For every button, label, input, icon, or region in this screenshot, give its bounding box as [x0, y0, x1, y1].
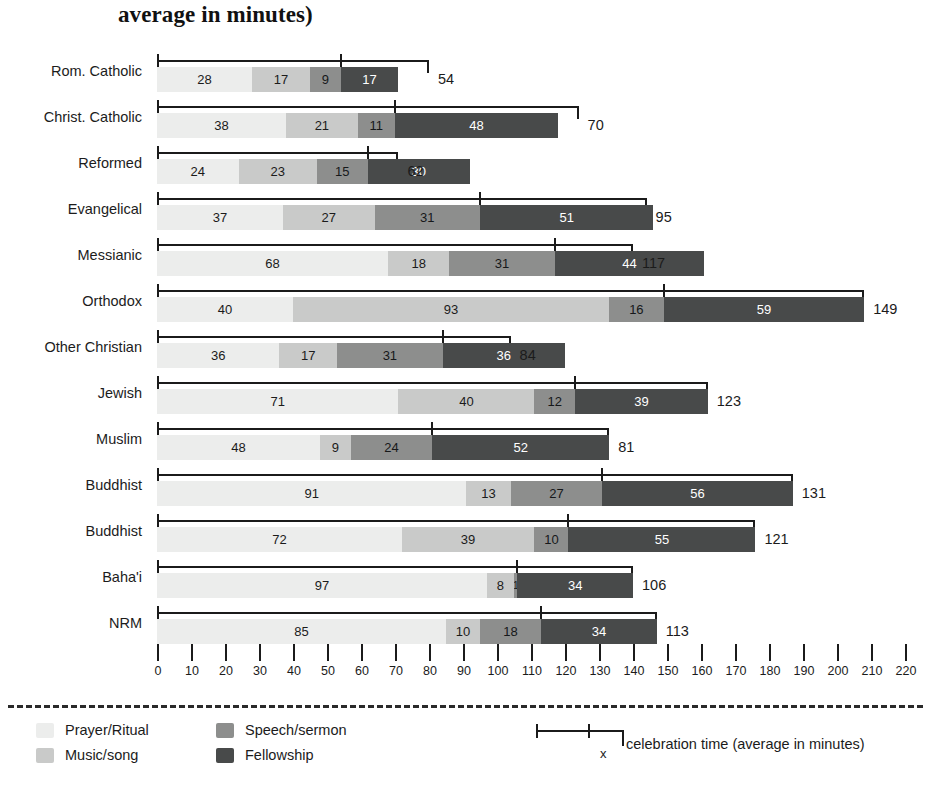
chart-row: Buddhist91132756131 — [0, 463, 931, 509]
bar-segment: 18 — [388, 251, 449, 276]
stacked-bar: 36173136 — [157, 343, 565, 368]
bar-segment-value: 72 — [272, 532, 286, 547]
bar-segment-value: 71 — [270, 394, 284, 409]
bar-segment: 28 — [157, 67, 252, 92]
bar-segment-value: 12 — [548, 394, 562, 409]
legend-caption: celebration time (average in minutes) — [626, 736, 865, 752]
bar-segment-value: 85 — [294, 624, 308, 639]
bar-segment-value: 36 — [497, 348, 511, 363]
bar-segment: 36 — [443, 343, 565, 368]
celebration-time-bracket — [157, 557, 633, 571]
bar-segment-value: 31 — [383, 348, 397, 363]
row-plot-area: 2423153062 — [157, 141, 931, 187]
bar-segment-value: 38 — [214, 118, 228, 133]
legend-item[interactable]: Fellowship — [216, 745, 314, 765]
celebration-time-value: 149 — [873, 301, 897, 317]
axis-tick — [565, 644, 567, 661]
bar-segment-value: 48 — [469, 118, 483, 133]
bar-segment: 27 — [511, 481, 603, 506]
row-label: Orthodox — [0, 293, 142, 309]
axis-tick — [497, 644, 499, 661]
bar-segment-value: 24 — [384, 440, 398, 455]
celebration-time-marker-icon — [536, 721, 632, 745]
axis-tick-label: 160 — [692, 664, 713, 678]
legend-color-swatch — [36, 723, 54, 738]
row-plot-area: 71401239123 — [157, 371, 931, 417]
bar-segment-value: 28 — [197, 72, 211, 87]
stacked-bar-chart: average in minutes) Rom. Catholic2817917… — [0, 0, 931, 787]
celebration-time-bracket — [157, 97, 579, 111]
chart-row: Christ. Catholic3821114870 — [0, 95, 931, 141]
row-plot-area: 40931659149 — [157, 279, 931, 325]
bar-segment-value: 52 — [514, 440, 528, 455]
row-label: Buddhist — [0, 477, 142, 493]
bar-segment: 31 — [449, 251, 554, 276]
axis-tick — [871, 644, 873, 661]
celebration-time-bracket — [157, 603, 657, 617]
row-label: Rom. Catholic — [0, 63, 142, 79]
bar-segment-value: 23 — [270, 164, 284, 179]
bar-segment-value: 15 — [335, 164, 349, 179]
bar-segment: 12 — [534, 389, 575, 414]
chart-row: Buddhist72391055121 — [0, 509, 931, 555]
row-plot-area: 281791754 — [157, 49, 931, 95]
bar-segment: 71 — [157, 389, 398, 414]
legend-marker-label: x — [600, 746, 607, 761]
legend-item[interactable]: Prayer/Ritual — [36, 720, 149, 740]
axis-tick — [463, 644, 465, 661]
bar-segment: 24 — [157, 159, 239, 184]
axis-tick-label: 210 — [862, 664, 883, 678]
bar-segment-value: 44 — [622, 256, 636, 271]
bar-segment: 40 — [398, 389, 534, 414]
legend-label: Speech/sermon — [245, 722, 347, 738]
row-label: Evangelical — [0, 201, 142, 217]
bar-segment: 15 — [317, 159, 368, 184]
bar-segment-value: 21 — [315, 118, 329, 133]
bar-segment: 34 — [517, 573, 633, 598]
bar-segment: 9 — [310, 67, 341, 92]
celebration-time-value: 113 — [666, 623, 689, 639]
axis-tick-label: 90 — [457, 664, 471, 678]
bar-segment-value: 40 — [459, 394, 473, 409]
legend-item[interactable]: Music/song — [36, 745, 138, 765]
chart-row: NRM85101834113 — [0, 601, 931, 647]
bar-segment-value: 18 — [412, 256, 426, 271]
axis-tick — [769, 644, 771, 661]
axis-tick-label: 120 — [556, 664, 577, 678]
bar-segment-value: 36 — [211, 348, 225, 363]
axis-tick — [293, 644, 295, 661]
axis-tick — [531, 644, 533, 661]
celebration-time-bracket — [157, 51, 429, 65]
axis-tick — [157, 644, 159, 661]
bar-segment-value: 37 — [213, 210, 227, 225]
bar-segment-value: 34 — [568, 578, 582, 593]
axis-tick-label: 200 — [828, 664, 849, 678]
axis-tick-label: 10 — [185, 664, 199, 678]
dashed-divider — [8, 705, 923, 708]
bar-segment-value: 13 — [481, 486, 495, 501]
bar-segment-value: 91 — [304, 486, 318, 501]
bar-segment-value: 11 — [370, 118, 384, 133]
axis-tick — [191, 644, 193, 661]
axis-tick-label: 150 — [658, 664, 679, 678]
stacked-bar: 71401239 — [157, 389, 708, 414]
legend-item[interactable]: Speech/sermon — [216, 720, 347, 740]
bar-segment-value: 55 — [655, 532, 669, 547]
chart-row: Muslim489245281 — [0, 417, 931, 463]
row-label: Baha'i — [0, 569, 142, 585]
chart-row: Messianic68183144117 — [0, 233, 931, 279]
bar-segment: 39 — [402, 527, 535, 552]
stacked-bar: 68183144 — [157, 251, 704, 276]
celebration-time-bracket — [157, 143, 398, 157]
row-plot-area: 978134106 — [157, 555, 931, 601]
row-plot-area: 489245281 — [157, 417, 931, 463]
axis-tick — [225, 644, 227, 661]
chart-row: Rom. Catholic281791754 — [0, 49, 931, 95]
bar-segment: 59 — [664, 297, 865, 322]
bar-segment: 10 — [446, 619, 480, 644]
bar-segment: 16 — [609, 297, 663, 322]
bar-segment: 56 — [602, 481, 792, 506]
axis-tick-label: 100 — [488, 664, 509, 678]
celebration-time-bracket — [157, 465, 793, 479]
celebration-time-value: 62 — [407, 163, 423, 179]
